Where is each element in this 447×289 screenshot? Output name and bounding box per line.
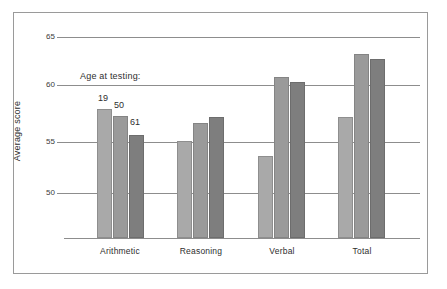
y-axis-title: Average score bbox=[12, 91, 22, 171]
bar-verbal-50 bbox=[274, 77, 289, 238]
tickmark-50 bbox=[57, 193, 64, 194]
y-tick-label-65: 65 bbox=[33, 33, 55, 41]
bar-group-arithmetic bbox=[97, 51, 144, 238]
bar-verbal-19 bbox=[258, 156, 273, 238]
bar-group-verbal bbox=[258, 51, 305, 238]
y-tick-label-60: 60 bbox=[33, 81, 55, 89]
x-category-label-arithmetic: Arithmetic bbox=[85, 246, 155, 256]
tickmark-65 bbox=[57, 37, 64, 38]
bar-reasoning-50 bbox=[193, 123, 208, 238]
x-category-label-verbal: Verbal bbox=[247, 246, 317, 256]
bar-verbal-61 bbox=[290, 82, 305, 238]
bar-chart: 65 60 55 50 Average score Age at testing… bbox=[0, 0, 447, 289]
bar-arithmetic-19 bbox=[97, 109, 112, 238]
bar-total-61 bbox=[370, 59, 385, 239]
bar-group-total bbox=[338, 51, 385, 238]
bar-arithmetic-50 bbox=[113, 116, 128, 238]
x-axis-line bbox=[64, 238, 420, 239]
tickmark-60 bbox=[57, 85, 64, 86]
bar-reasoning-61 bbox=[209, 117, 224, 238]
x-category-label-reasoning: Reasoning bbox=[166, 246, 236, 256]
bar-reasoning-19 bbox=[177, 141, 192, 238]
x-category-label-total: Total bbox=[327, 246, 397, 256]
bar-total-50 bbox=[354, 54, 369, 238]
tickmark-55 bbox=[57, 142, 64, 143]
gridline-65 bbox=[64, 37, 420, 38]
bar-total-19 bbox=[338, 117, 353, 238]
bar-group-reasoning bbox=[177, 51, 224, 238]
bar-arithmetic-61 bbox=[129, 135, 144, 238]
y-tick-label-50: 50 bbox=[33, 189, 55, 197]
y-tick-label-55: 55 bbox=[33, 138, 55, 146]
